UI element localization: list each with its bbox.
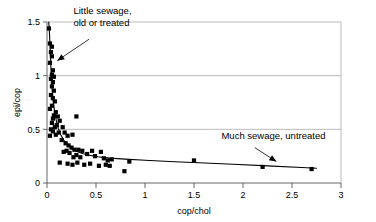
- data-point-marker: [93, 154, 97, 158]
- data-point-marker: [80, 149, 84, 153]
- y-axis-title: epi/cop: [12, 88, 22, 117]
- data-point-marker: [310, 167, 314, 171]
- data-point-marker: [71, 155, 75, 159]
- data-point-marker: [61, 125, 65, 129]
- data-point-marker: [53, 99, 57, 103]
- data-point-marker: [97, 164, 101, 168]
- x-tick-label-1: 1: [142, 190, 147, 200]
- data-point-marker: [90, 149, 94, 153]
- y-tick-label-1: 1: [35, 71, 40, 81]
- x-tick-label-0.5: 0.5: [90, 190, 103, 200]
- y-tick-label-0.5: 0.5: [27, 125, 40, 135]
- data-point-marker: [67, 151, 71, 155]
- annotation-text-little-sewage: old or treated: [73, 17, 129, 28]
- x-tick-label-0: 0: [44, 190, 49, 200]
- data-point-marker: [70, 133, 74, 137]
- data-point-marker: [75, 161, 79, 165]
- data-point-marker: [54, 133, 58, 137]
- data-point-marker: [72, 148, 76, 152]
- data-point-marker: [70, 163, 74, 167]
- y-tick-label-0: 0: [35, 178, 40, 188]
- data-point-marker: [56, 114, 60, 118]
- data-point-marker: [48, 107, 52, 111]
- data-point-marker: [51, 80, 55, 84]
- data-point-marker: [48, 134, 52, 138]
- xtick-marks-group: [47, 183, 341, 188]
- data-point-marker: [52, 89, 56, 93]
- data-point-marker: [99, 150, 103, 154]
- data-point-marker: [88, 162, 92, 166]
- ytick-labels-group: 00.511.5: [27, 17, 40, 188]
- x-tick-label-2: 2: [240, 190, 245, 200]
- data-point-marker: [47, 26, 51, 30]
- y-tick-label-1.5: 1.5: [27, 17, 40, 27]
- fit-curve-group: [49, 22, 317, 168]
- data-point-marker: [48, 61, 52, 65]
- data-point-marker: [50, 121, 54, 125]
- x-tick-label-3: 3: [338, 190, 343, 200]
- data-point-marker: [58, 119, 62, 123]
- x-tick-label-1.5: 1.5: [188, 190, 201, 200]
- data-point-marker: [108, 164, 112, 168]
- data-point-marker: [58, 161, 62, 165]
- data-point-marker: [53, 125, 57, 129]
- data-point-marker: [60, 138, 64, 142]
- annotation-arrowhead-much-sewage: [269, 155, 277, 161]
- fitted-decay-curve: [49, 22, 317, 168]
- axis-titles-group: cop/cholepi/cop: [12, 88, 211, 216]
- data-point-marker: [50, 54, 54, 58]
- x-axis-title: cop/chol: [177, 206, 211, 216]
- data-point-marker: [127, 159, 131, 163]
- scatter-plot-svg: 00.511.522.53 00.511.5 Little sewage,old…: [0, 0, 376, 222]
- data-point-marker: [51, 117, 55, 121]
- data-point-marker: [192, 158, 196, 162]
- data-point-marker: [78, 155, 82, 159]
- data-point-marker: [50, 45, 54, 49]
- data-point-marker: [76, 148, 80, 152]
- data-point-marker: [65, 162, 69, 166]
- data-point-marker: [261, 165, 265, 169]
- xtick-labels-group: 00.511.522.53: [44, 190, 343, 200]
- data-markers-group: [47, 26, 314, 173]
- data-point-marker: [74, 114, 78, 118]
- data-point-marker: [65, 134, 69, 138]
- data-point-marker: [102, 156, 106, 160]
- annotation-text-little-sewage: Little sewage,: [73, 5, 131, 16]
- annotations-group: Little sewage,old or treatedMuch sewage,…: [57, 5, 325, 161]
- data-point-marker: [50, 84, 54, 88]
- chart-figure: 00.511.522.53 00.511.5 Little sewage,old…: [0, 0, 376, 222]
- annotation-text-much-sewage: Much sewage, untreated: [221, 130, 325, 141]
- annotation-arrowhead-little-sewage: [57, 54, 64, 60]
- data-point-marker: [85, 152, 89, 156]
- ytick-marks-group: [43, 22, 47, 183]
- x-tick-label-2.5: 2.5: [286, 190, 299, 200]
- data-point-marker: [51, 68, 55, 72]
- data-point-marker: [110, 157, 114, 161]
- data-point-marker: [106, 158, 110, 162]
- data-point-marker: [122, 169, 126, 173]
- data-point-marker: [104, 163, 108, 167]
- data-point-marker: [62, 150, 66, 154]
- data-point-marker: [82, 163, 86, 167]
- data-point-marker: [49, 50, 53, 54]
